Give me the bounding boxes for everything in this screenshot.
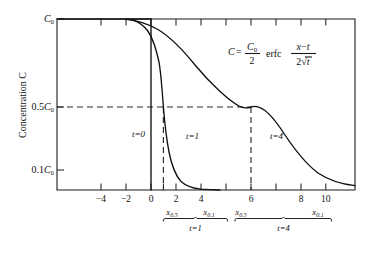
eq-equals: = — [236, 46, 242, 57]
eq-lhs: C — [228, 46, 235, 57]
y-axis-title-text: Concentration C — [17, 72, 28, 138]
x-tick-label: −4 — [96, 194, 106, 204]
x-tick-label: 4 — [199, 194, 204, 204]
y-tick-label-half-c0: 0.5C0 — [31, 101, 54, 113]
brace-t1-right-marker: x0.1 — [202, 207, 214, 218]
plot-canvas: −4 −2 0 2 4 6 8 10 C0 0.5C0 0.1C0 — [0, 0, 371, 254]
brace-t1-label: t=1 — [189, 223, 201, 233]
curve-t4 — [126, 19, 355, 185]
svg-text:C0: C0 — [44, 13, 55, 25]
eq-arg-den-t: t — [307, 56, 310, 67]
eq-frac-num-sub: 0 — [254, 46, 258, 53]
curve-label-t4-text: t=4 — [270, 131, 284, 141]
eq-frac-den: 2 — [250, 55, 255, 66]
erfc-concentration-figure: −4 −2 0 2 4 6 8 10 C0 0.5C0 0.1C0 — [0, 0, 371, 254]
brace-t1: x0.5 x0.1 t=1 — [163, 207, 227, 233]
curve-label-t0: t=0 — [132, 129, 146, 139]
y-tick-label-tenth-c0: 0.1C0 — [31, 164, 54, 176]
curve-t0 — [57, 19, 151, 190]
brace-t4-right-marker: x0.1 — [311, 207, 323, 218]
curve-label-t1: t=1 — [186, 131, 199, 141]
y-tick-label-c0: C0 — [44, 13, 55, 25]
svg-text:0.1C0: 0.1C0 — [31, 164, 54, 176]
curve-label-t4: t=4 — [270, 131, 284, 141]
svg-text:0.5C0: 0.5C0 — [31, 101, 54, 113]
curve-label-t0-text: t=0 — [132, 129, 146, 139]
brace-t4-label: t=4 — [277, 223, 290, 233]
x-tick-label: −2 — [121, 194, 131, 204]
y-tick-c0-sub: 0 — [51, 18, 55, 25]
brace-t1-left-marker: x0.5 — [165, 207, 177, 218]
brace-t4: x0.5 x0.1 t=4 — [234, 207, 331, 233]
x-tick-label: 0 — [149, 194, 154, 204]
x-tick-label: 8 — [299, 194, 304, 204]
plot-frame — [57, 19, 355, 190]
svg-text:x−t: x−t — [296, 41, 310, 52]
svg-text:C: C — [228, 46, 235, 57]
x-tick-labels: −4 −2 0 2 4 6 8 10 — [96, 194, 331, 204]
x-axis-ticks — [101, 184, 326, 191]
y-tick-tenth-sub: 0 — [51, 169, 55, 176]
y-tick-tenth-prefix: 0.1 — [31, 164, 44, 175]
eq-arg-num-t: t — [307, 41, 310, 52]
x-tick-label: 2 — [174, 194, 179, 204]
y-tick-half-sub: 0 — [51, 106, 55, 113]
y-tick-half-prefix: 0.5 — [31, 101, 44, 112]
eq-func: erfc — [266, 48, 282, 59]
svg-text:2√t: 2√t — [296, 56, 310, 67]
svg-text:C0: C0 — [247, 41, 258, 53]
y-axis-ticks — [57, 19, 64, 170]
equation-annotation: C = C0 2 erfc x−t 2√t — [228, 41, 316, 67]
x-tick-label: 10 — [321, 194, 331, 204]
curve-label-t1-text: t=1 — [186, 131, 199, 141]
y-axis-title: Concentration C — [17, 72, 28, 138]
x-tick-label: 6 — [249, 194, 254, 204]
curve-t1 — [132, 20, 220, 190]
brace-t4-left-marker: x0.5 — [234, 207, 246, 218]
